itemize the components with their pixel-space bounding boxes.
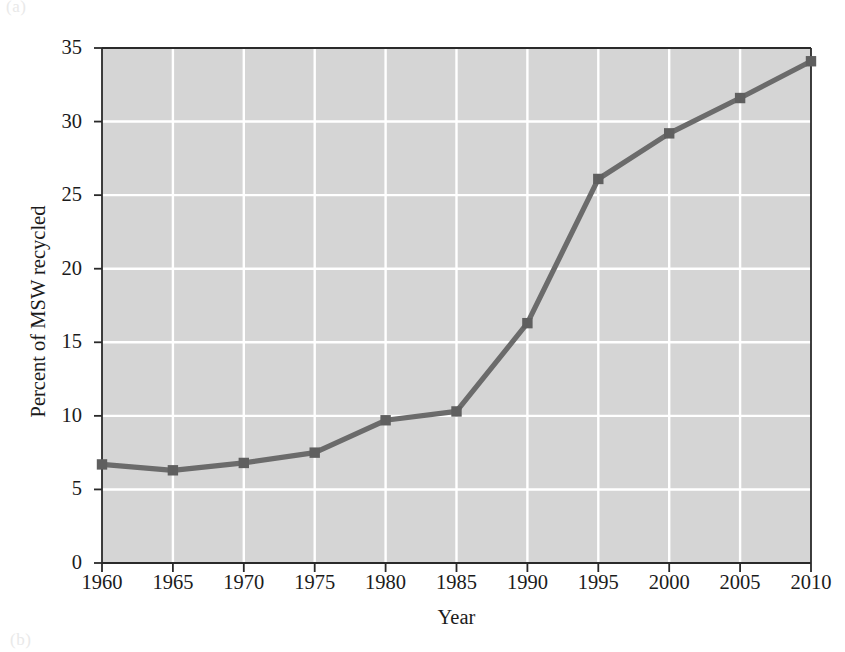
data-point-marker — [522, 318, 532, 328]
data-point-marker — [735, 93, 745, 103]
line-chart-plot — [0, 0, 845, 652]
data-point-marker — [664, 128, 674, 138]
figure-panel: (a) (b) Percent of MSW recycled Year 051… — [0, 0, 845, 652]
data-point-marker — [168, 465, 178, 475]
data-point-marker — [806, 56, 816, 66]
data-point-marker — [310, 447, 320, 457]
data-point-marker — [380, 415, 390, 425]
data-point-marker — [239, 458, 249, 468]
data-point-marker — [451, 406, 461, 416]
data-point-marker — [593, 174, 603, 184]
data-point-marker — [97, 459, 107, 469]
